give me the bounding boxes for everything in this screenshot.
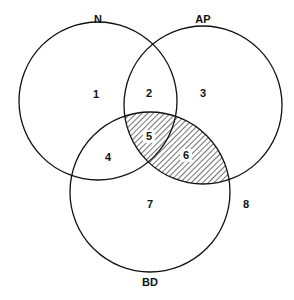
region-label-1: 1 bbox=[93, 88, 99, 100]
set-label-n: N bbox=[94, 13, 102, 25]
region-label-8: 8 bbox=[243, 198, 249, 210]
region-label-6: 6 bbox=[183, 149, 189, 161]
set-label-ap: AP bbox=[195, 13, 210, 25]
venn-diagram: N AP BD 1 2 3 4 5 6 7 8 bbox=[0, 0, 294, 300]
region-label-7: 7 bbox=[147, 198, 153, 210]
region-label-2: 2 bbox=[146, 87, 152, 99]
region-label-3: 3 bbox=[200, 87, 206, 99]
set-label-bd: BD bbox=[142, 276, 158, 288]
region-label-4: 4 bbox=[105, 151, 112, 163]
region-label-5: 5 bbox=[146, 130, 152, 142]
